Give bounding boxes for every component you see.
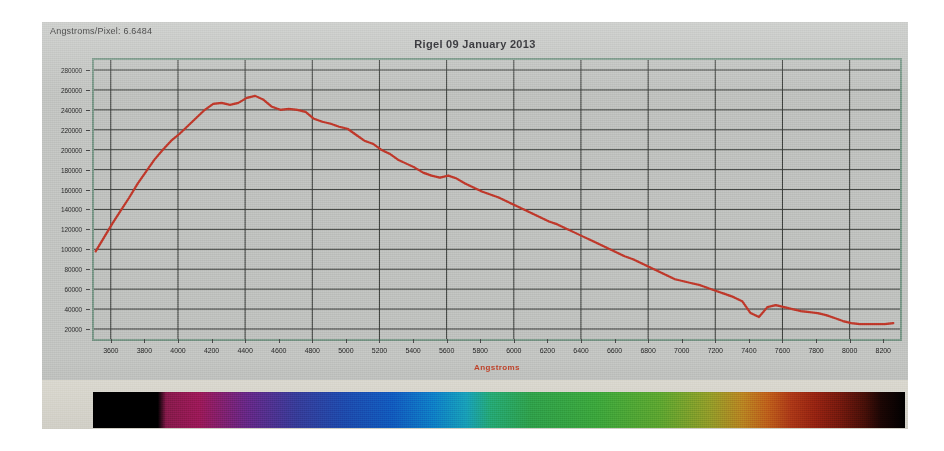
x-axis-tick-label: 4600 xyxy=(271,347,286,354)
screenshot-root: Angstroms/Pixel: 6.6484 Rigel 09 January… xyxy=(0,0,944,451)
x-axis-tick-label: 7400 xyxy=(741,347,756,354)
x-axis-tick-label: 6200 xyxy=(540,347,555,354)
y-axis-tick-mark xyxy=(86,329,90,330)
x-axis-tick-label: 6400 xyxy=(573,347,588,354)
x-axis-tick-mark xyxy=(379,339,380,343)
y-axis-tick-label: 240000 xyxy=(61,106,82,113)
y-axis-tick-mark xyxy=(86,110,90,111)
y-axis-tick-label: 280000 xyxy=(61,66,82,73)
x-axis-tick-label: 4400 xyxy=(238,347,253,354)
x-axis-tick-mark xyxy=(581,339,582,343)
x-axis-tick-label: 8000 xyxy=(842,347,857,354)
y-axis-tick-mark xyxy=(86,90,90,91)
x-axis-tick-label: 5600 xyxy=(439,347,454,354)
x-axis-tick-label: 8200 xyxy=(876,347,891,354)
x-axis-tick-label: 5800 xyxy=(473,347,488,354)
y-axis-tick-label: 100000 xyxy=(61,246,82,253)
x-axis-tick-mark xyxy=(715,339,716,343)
y-axis-tick-label: 160000 xyxy=(61,186,82,193)
spectrum-line-chart xyxy=(94,60,900,339)
angstroms-per-pixel-readout: Angstroms/Pixel: 6.6484 xyxy=(50,26,152,36)
y-axis-tick-mark xyxy=(86,190,90,191)
y-axis-tick-mark xyxy=(86,150,90,151)
x-axis-tick-label: 7200 xyxy=(708,347,723,354)
y-axis-tick-mark xyxy=(86,229,90,230)
x-axis-tick-label: 6800 xyxy=(641,347,656,354)
x-axis-tick-label: 4000 xyxy=(170,347,185,354)
x-axis-tick-mark xyxy=(312,339,313,343)
x-axis-tick-mark xyxy=(279,339,280,343)
x-axis-tick-mark xyxy=(615,339,616,343)
x-axis-tick-label: 5200 xyxy=(372,347,387,354)
x-axis-tick-mark xyxy=(178,339,179,343)
y-axis-tick-mark xyxy=(86,309,90,310)
x-axis-tick-label: 7800 xyxy=(808,347,823,354)
x-axis-tick-mark xyxy=(547,339,548,343)
spectrum-strip-container xyxy=(93,392,905,428)
y-axis-tick-label: 200000 xyxy=(61,146,82,153)
x-axis-tick-label: 6000 xyxy=(506,347,521,354)
x-axis-tick-label: 5000 xyxy=(338,347,353,354)
y-axis-tick-mark xyxy=(86,269,90,270)
x-axis-tick-mark xyxy=(648,339,649,343)
plot-frame[interactable] xyxy=(92,58,902,341)
x-axis-tick-mark xyxy=(144,339,145,343)
y-axis-tick-mark xyxy=(86,130,90,131)
x-axis-tick-label: 5400 xyxy=(405,347,420,354)
y-axis-tick-label: 80000 xyxy=(64,266,82,273)
x-axis-tick-mark xyxy=(480,339,481,343)
y-axis-tick-mark xyxy=(86,209,90,210)
x-axis-tick-mark xyxy=(883,339,884,343)
spectrum-strip xyxy=(93,392,905,428)
x-axis-tick-mark xyxy=(782,339,783,343)
x-axis-tick-label: 3800 xyxy=(137,347,152,354)
y-axis-tick-label: 40000 xyxy=(64,306,82,313)
x-axis-tick-label: 4200 xyxy=(204,347,219,354)
x-axis-tick-label: 4800 xyxy=(305,347,320,354)
x-axis-tick-mark xyxy=(749,339,750,343)
y-axis-labels: 2000040000600008000010000012000014000016… xyxy=(42,58,90,341)
y-axis-tick-label: 20000 xyxy=(64,326,82,333)
y-axis-tick-mark xyxy=(86,289,90,290)
x-axis-tick-label: 3600 xyxy=(103,347,118,354)
y-axis-tick-label: 120000 xyxy=(61,226,82,233)
x-axis-title: Angstroms xyxy=(92,363,902,372)
chart-title: Rigel 09 January 2013 xyxy=(42,38,908,50)
x-axis-tick-mark xyxy=(346,339,347,343)
x-axis-tick-label: 7000 xyxy=(674,347,689,354)
plot-area xyxy=(94,60,900,339)
x-axis-tick-mark xyxy=(850,339,851,343)
photographed-screen-area: Angstroms/Pixel: 6.6484 Rigel 09 January… xyxy=(42,22,908,429)
y-axis-tick-label: 140000 xyxy=(61,206,82,213)
y-axis-tick-mark xyxy=(86,249,90,250)
x-axis-tick-mark xyxy=(212,339,213,343)
x-axis-tick-mark xyxy=(447,339,448,343)
y-axis-tick-label: 260000 xyxy=(61,86,82,93)
x-axis-tick-mark xyxy=(816,339,817,343)
x-axis-tick-mark xyxy=(682,339,683,343)
x-axis-tick-mark xyxy=(111,339,112,343)
y-axis-tick-mark xyxy=(86,170,90,171)
y-axis-tick-label: 220000 xyxy=(61,126,82,133)
y-axis-tick-label: 60000 xyxy=(64,286,82,293)
spectrum-plot-window: Angstroms/Pixel: 6.6484 Rigel 09 January… xyxy=(42,22,908,380)
x-axis-tick-mark xyxy=(245,339,246,343)
x-axis-tick-mark xyxy=(514,339,515,343)
x-axis-tick-mark xyxy=(413,339,414,343)
x-axis-tick-label: 7600 xyxy=(775,347,790,354)
y-axis-tick-mark xyxy=(86,70,90,71)
y-axis-tick-label: 180000 xyxy=(61,166,82,173)
x-axis-labels: 3600380040004200440046004800500052005400… xyxy=(92,343,902,361)
x-axis-tick-label: 6600 xyxy=(607,347,622,354)
